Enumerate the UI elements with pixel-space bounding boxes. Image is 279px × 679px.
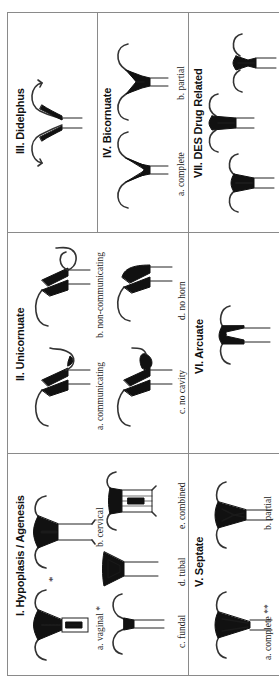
section-title-hypoplasia-agenesis: I. Hypoplasis / Agenesis — [14, 495, 26, 616]
uterus-hypoplasia-vaginal-diagram — [30, 586, 92, 664]
subtype-label-unicornuate-no-cavity: c. no cavity — [177, 370, 187, 414]
uterus-des-variant-2-diagram — [204, 90, 254, 156]
section-title-des-drug-related: VII. DES Drug Related — [192, 69, 204, 179]
uterus-bicornuate-partial-diagram — [112, 40, 168, 124]
uterus-unicornuate-non-communicating-diagram — [28, 240, 90, 332]
uterus-des-variant-1-diagram — [224, 150, 274, 216]
uterus-des-variant-3-diagram — [228, 30, 276, 96]
section-title-unicornuate: II. Unicornuate — [14, 308, 26, 381]
subtype-label-septate-partial: b. partial — [263, 496, 273, 530]
subtype-label-bicornuate-complete: a. complete — [176, 152, 186, 196]
row-divider-top — [7, 232, 279, 233]
uterus-hypoplasia-cervical-diagram — [30, 492, 92, 572]
subtype-label-unicornuate-no-horn: d. no horn — [177, 281, 187, 320]
uterus-hypoplasia-tubal-diagram — [100, 548, 162, 590]
uterus-unicornuate-communicating-diagram — [28, 340, 90, 432]
subtype-label-hypoplasia-vaginal: a. vaginal * — [95, 606, 105, 650]
uterus-hypoplasia-combined-diagram — [100, 468, 162, 534]
section-title-septate: V. Septate — [193, 537, 205, 587]
row-divider-bottom — [7, 453, 279, 454]
subtype-label-septate-complete: a. complete ** — [263, 604, 273, 660]
uterus-bicornuate-complete-diagram — [112, 128, 168, 212]
column-divider-top-left — [97, 12, 98, 232]
subtype-label-hypoplasia-combined: e. combined — [177, 483, 187, 529]
asterisk-mark: * — [46, 577, 58, 583]
subtype-label-hypoplasia-tubal: d. tubal — [177, 558, 187, 587]
subtype-label-unicornuate-communicating: a. communicating — [95, 362, 105, 430]
subtype-label-hypoplasia-fundal: c. fundal — [177, 615, 187, 648]
uterus-arcuate-diagram — [214, 300, 270, 370]
column-divider-right — [188, 12, 189, 676]
uterus-unicornuate-no-cavity-diagram — [110, 340, 172, 432]
uterus-hypoplasia-fundal-diagram — [106, 590, 168, 658]
subtype-label-bicornuate-partial: b. partial — [176, 66, 186, 100]
uterus-unicornuate-no-horn-diagram — [110, 255, 172, 325]
section-title-arcuate: VI. Arcuate — [193, 319, 205, 374]
subtype-label-unicornuate-non-communicating: b. non-communicating — [95, 252, 105, 338]
uterus-didelphus-diagram — [22, 75, 82, 170]
